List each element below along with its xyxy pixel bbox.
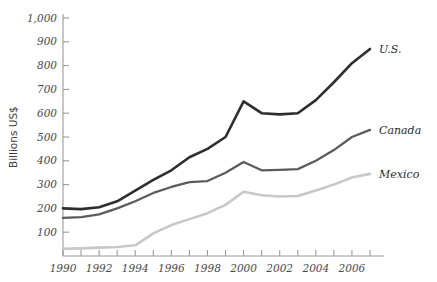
y-tick-label: 1,000 — [27, 12, 57, 24]
y-tick-label: 400 — [36, 154, 57, 166]
y-tick-label: 900 — [37, 35, 57, 47]
x-tick-label: 2006 — [338, 262, 366, 274]
y-tick-label: 200 — [36, 202, 57, 214]
x-tick-label: 1990 — [50, 262, 77, 274]
series-label-canada: Canada — [379, 124, 421, 137]
y-axis: 1002003004005006007008009001,000 — [27, 12, 69, 257]
x-tick-label: 1998 — [194, 262, 221, 274]
x-tick-label: 1996 — [158, 262, 185, 274]
y-tick-label: 700 — [37, 83, 57, 95]
x-axis: 199019921994199619982000200220042006 — [50, 250, 384, 274]
y-tick-label: 300 — [37, 178, 57, 190]
y-tick-label: 600 — [37, 107, 57, 119]
series-label-us: U.S. — [379, 43, 401, 56]
x-tick-label: 2002 — [265, 262, 293, 274]
x-tick-label: 1994 — [122, 262, 149, 274]
y-tick-label: 800 — [37, 59, 57, 71]
y-axis-title: Billions US$ — [7, 106, 19, 168]
series-labels: U.S.CanadaMexico — [378, 43, 421, 181]
y-tick-label: 100 — [37, 226, 57, 238]
series-lines — [63, 49, 370, 249]
x-tick-label: 1992 — [86, 262, 113, 274]
series-line-us — [63, 49, 370, 209]
x-tick-label: 2004 — [301, 262, 329, 274]
line-chart: 1002003004005006007008009001,000 1990199… — [0, 0, 437, 282]
y-tick-label: 500 — [37, 131, 57, 143]
x-tick-label: 2000 — [229, 262, 257, 274]
series-label-mexico: Mexico — [378, 168, 420, 181]
chart-canvas: 1002003004005006007008009001,000 1990199… — [0, 0, 437, 282]
